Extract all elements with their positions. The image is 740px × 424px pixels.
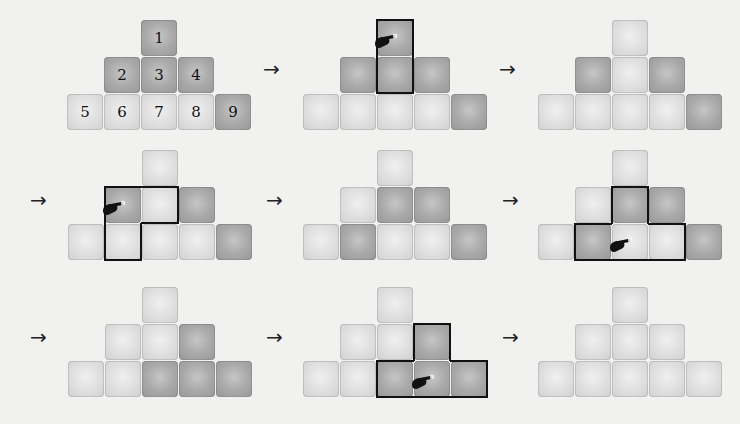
cell-3[interactable]: [377, 57, 413, 93]
cell-2[interactable]: [105, 324, 141, 360]
cell-8[interactable]: [179, 224, 215, 260]
cell-8[interactable]: 8: [178, 94, 214, 130]
step-arrow-icon: →: [502, 188, 519, 212]
cell-1[interactable]: [142, 287, 178, 323]
cell-9[interactable]: [686, 361, 722, 397]
cell-5[interactable]: [538, 224, 574, 260]
cell-7[interactable]: [377, 224, 413, 260]
cell-7[interactable]: [612, 361, 648, 397]
cell-6[interactable]: [575, 94, 611, 130]
cell-3[interactable]: [377, 324, 413, 360]
cell-2[interactable]: [575, 187, 611, 223]
cell-label: 7: [154, 103, 164, 121]
cell-2[interactable]: [340, 324, 376, 360]
cell-4[interactable]: [414, 324, 450, 360]
cell-1[interactable]: [142, 150, 178, 186]
cell-4[interactable]: [649, 187, 685, 223]
cell-6[interactable]: [340, 94, 376, 130]
step-arrow-icon: →: [30, 188, 47, 212]
cell-1[interactable]: [377, 150, 413, 186]
cell-8[interactable]: [414, 94, 450, 130]
cell-7[interactable]: [377, 94, 413, 130]
cell-3[interactable]: [142, 324, 178, 360]
panel-2: [303, 20, 493, 140]
pointing-hand-icon: [373, 32, 399, 52]
cell-7[interactable]: [612, 94, 648, 130]
cell-5[interactable]: [303, 94, 339, 130]
cell-3[interactable]: [612, 57, 648, 93]
cell-9[interactable]: [216, 361, 252, 397]
cell-7[interactable]: [377, 361, 413, 397]
cell-6[interactable]: [575, 224, 611, 260]
cell-1[interactable]: [612, 287, 648, 323]
cell-2[interactable]: [340, 57, 376, 93]
cell-1[interactable]: [612, 20, 648, 56]
cell-8[interactable]: [414, 224, 450, 260]
cell-5[interactable]: [303, 224, 339, 260]
cell-8[interactable]: [649, 94, 685, 130]
cell-5[interactable]: 5: [67, 94, 103, 130]
panel-4: [68, 150, 258, 270]
cell-1[interactable]: [612, 150, 648, 186]
cell-3[interactable]: [377, 187, 413, 223]
cell-2[interactable]: [340, 187, 376, 223]
panel-5: [303, 150, 493, 270]
cell-5[interactable]: [538, 361, 574, 397]
cell-6[interactable]: 6: [104, 94, 140, 130]
cell-9[interactable]: 9: [215, 94, 251, 130]
cell-label: 4: [191, 66, 201, 84]
cell-label: 8: [191, 103, 201, 121]
cell-6[interactable]: [105, 361, 141, 397]
cell-8[interactable]: [649, 224, 685, 260]
cell-5[interactable]: [68, 224, 104, 260]
cell-label: 2: [117, 66, 127, 84]
step-arrow-icon: →: [30, 325, 47, 349]
cell-4[interactable]: [179, 324, 215, 360]
panel-8: [303, 287, 493, 407]
cell-7[interactable]: 7: [141, 94, 177, 130]
cell-3[interactable]: [612, 187, 648, 223]
step-arrow-icon: →: [266, 188, 283, 212]
cell-8[interactable]: [649, 361, 685, 397]
step-arrow-icon: →: [266, 325, 283, 349]
cell-6[interactable]: [105, 224, 141, 260]
cell-9[interactable]: [451, 224, 487, 260]
cell-7[interactable]: [142, 224, 178, 260]
cell-1[interactable]: 1: [141, 20, 177, 56]
cell-label: 5: [80, 103, 90, 121]
cell-4[interactable]: [179, 187, 215, 223]
cell-4[interactable]: [649, 324, 685, 360]
cell-7[interactable]: [142, 361, 178, 397]
cell-2[interactable]: [575, 57, 611, 93]
cell-9[interactable]: [686, 224, 722, 260]
cell-label: 6: [117, 103, 127, 121]
cell-3[interactable]: [612, 324, 648, 360]
panel-7: [68, 287, 258, 407]
cell-9[interactable]: [216, 224, 252, 260]
cell-label: 1: [154, 29, 164, 47]
cell-3[interactable]: 3: [141, 57, 177, 93]
pointing-hand-icon: [608, 236, 634, 256]
cell-2[interactable]: 2: [104, 57, 140, 93]
cell-9[interactable]: [451, 361, 487, 397]
cell-5[interactable]: [538, 94, 574, 130]
cell-8[interactable]: [179, 361, 215, 397]
cell-4[interactable]: [414, 57, 450, 93]
cell-6[interactable]: [575, 361, 611, 397]
cell-1[interactable]: [377, 287, 413, 323]
cell-3[interactable]: [142, 187, 178, 223]
cell-5[interactable]: [303, 361, 339, 397]
cell-label: 9: [228, 103, 238, 121]
cell-2[interactable]: [575, 324, 611, 360]
cell-9[interactable]: [451, 94, 487, 130]
cell-5[interactable]: [68, 361, 104, 397]
panel-9: [538, 287, 728, 407]
cell-4[interactable]: [414, 187, 450, 223]
cell-4[interactable]: 4: [178, 57, 214, 93]
cell-6[interactable]: [340, 224, 376, 260]
cell-6[interactable]: [340, 361, 376, 397]
cell-4[interactable]: [649, 57, 685, 93]
cell-9[interactable]: [686, 94, 722, 130]
step-arrow-icon: →: [263, 57, 280, 81]
panel-1: 123456789: [67, 20, 257, 140]
